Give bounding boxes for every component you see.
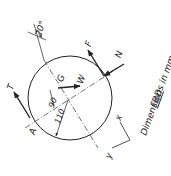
force-f-arrow — [88, 50, 104, 76]
force-t-label: T — [5, 81, 17, 91]
centerline-a — [25, 68, 118, 128]
force-w-label: W — [75, 72, 88, 85]
y-axis-label: y — [103, 151, 115, 161]
xy-axes — [112, 122, 130, 148]
angle-label: 20° — [33, 19, 48, 37]
dim-110-label: 110 — [53, 108, 67, 125]
force-w-arrow — [58, 86, 80, 88]
force-f-label: F — [83, 39, 94, 48]
fbd-diagram: 20° T A G W 90 110 F N x y Dimensions in… — [0, 0, 171, 176]
force-n-label: N — [113, 49, 125, 59]
force-n-arrow — [104, 64, 124, 76]
point-g-label: G — [55, 73, 67, 83]
point-a-label: A — [27, 127, 39, 137]
x-axis-label: x — [113, 113, 125, 123]
